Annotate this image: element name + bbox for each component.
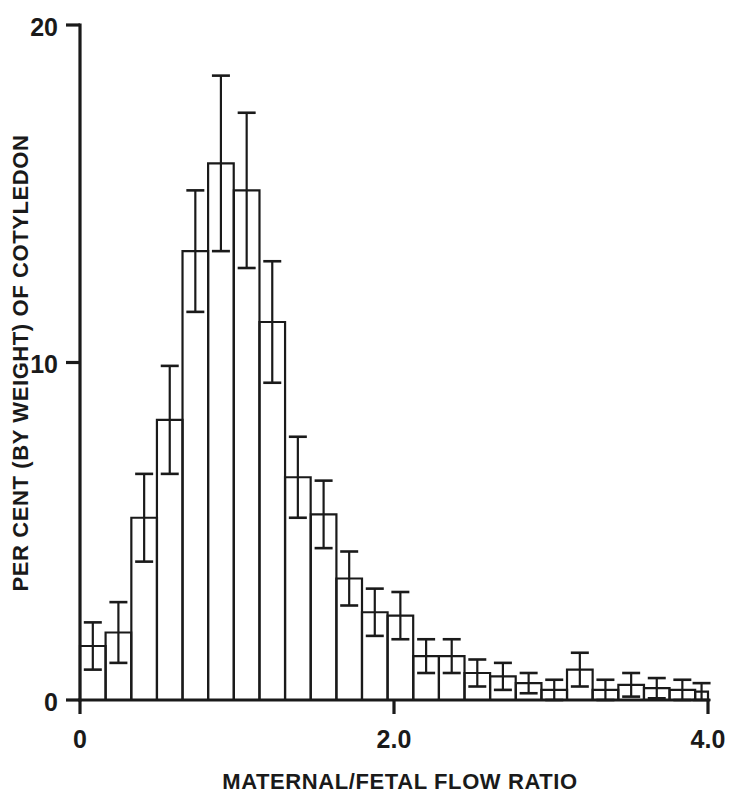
y-axis-ticks xyxy=(66,25,80,700)
histogram-plot: 20 10 0 0 2.0 4.0 MATERNAL/FETAL FLOW RA… xyxy=(0,0,738,798)
figure-container: 20 10 0 0 2.0 4.0 MATERNAL/FETAL FLOW RA… xyxy=(0,0,738,798)
x-tick-label-2: 2.0 xyxy=(377,725,412,753)
y-tick-label-10: 10 xyxy=(30,350,58,378)
bars-group xyxy=(80,163,708,700)
x-tick-label-0: 0 xyxy=(73,725,87,753)
x-axis-ticks xyxy=(80,700,708,714)
y-tick-label-0: 0 xyxy=(44,688,58,716)
axes xyxy=(80,25,708,700)
y-axis-title: PER CENT (BY WEIGHT) OF COTYLEDON xyxy=(8,135,33,592)
y-tick-label-20: 20 xyxy=(30,13,58,41)
x-axis-title: MATERNAL/FETAL FLOW RATIO xyxy=(222,769,578,794)
x-tick-label-4: 4.0 xyxy=(691,725,726,753)
error-bars-group xyxy=(84,76,711,700)
histogram-bar xyxy=(183,251,209,700)
